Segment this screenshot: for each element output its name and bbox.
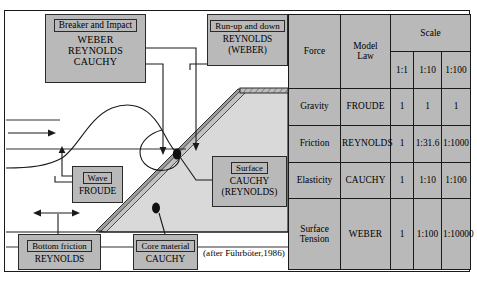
row-gravity-law: FROUDE [341, 88, 391, 125]
row-surface-tension-force-line2: Tension [290, 234, 339, 245]
row-surface-tension-value-2: 1:100 [414, 199, 442, 270]
callout-bottom-friction: Bottom friction REYNOLDS [18, 234, 101, 270]
anchor-dot-slope [173, 148, 181, 159]
leader-breaker-2 [146, 48, 196, 144]
row-gravity-value-1: 1 [391, 88, 414, 125]
leader-wave [55, 176, 72, 182]
row-friction-value-3: 1:1000 [442, 125, 471, 162]
row-friction-value-1: 1 [391, 125, 414, 162]
table-row: Elasticity CAUCHY 1 1:10 1:100 [289, 162, 471, 199]
row-surface-tension-law: WEBER [341, 199, 391, 270]
row-elasticity-value-3: 1:100 [442, 162, 471, 199]
row-surface-tension-force: Surface Tension [289, 199, 341, 270]
table-header-scale-1-10: 1:10 [414, 51, 442, 88]
callout-wave-line-1: FROUDE [75, 186, 120, 196]
row-surface-tension-value-3: 1:10000 [442, 199, 471, 270]
table-row: Surface Tension WEBER 1 1:100 1:10000 [289, 199, 471, 270]
row-elasticity-value-1: 1 [391, 162, 414, 199]
callout-breaker-line-3: CAUCHY [48, 56, 143, 67]
callout-runup-line-2: (WEBER) [210, 45, 285, 55]
callout-surface-line-2: (REYNOLDS) [215, 187, 284, 197]
callout-core-material-header: Core material [136, 240, 194, 252]
table-header-scale: Scale [391, 15, 471, 52]
row-gravity-force: Gravity [289, 88, 341, 125]
row-gravity-value-2: 1 [414, 88, 442, 125]
callout-breaker-header: Breaker and Impact [54, 19, 137, 32]
table-row: Gravity FROUDE 1 1 1 [289, 88, 471, 125]
table-header-row-1: Force Model Law Scale [289, 15, 471, 52]
bottom-friction-arrow [33, 210, 80, 217]
row-elasticity-force: Elasticity [289, 162, 341, 199]
callout-breaker-and-impact: Breaker and Impact WEBER REYNOLDS CAUCHY [45, 14, 146, 83]
row-gravity-value-3: 1 [442, 88, 471, 125]
table-header-scale-1-1: 1:1 [391, 51, 414, 88]
table-header-force: Force [289, 15, 341, 89]
table-header-model-law-line1: Model [342, 41, 389, 52]
anchor-dot-core [152, 203, 160, 214]
row-surface-tension-force-line1: Surface [290, 224, 339, 235]
wave-profile [6, 105, 178, 168]
callout-run-up-and-down: Run-up and down REYNOLDS (WEBER) [207, 14, 288, 66]
callout-wave: Wave FROUDE [72, 166, 123, 203]
callout-breaker-line-1: WEBER [48, 34, 143, 45]
row-friction-value-2: 1:31.6 [414, 125, 442, 162]
leader-breaker [146, 64, 163, 148]
scale-effects-table: Force Model Law Scale 1:1 1:10 1:100 Gra… [288, 14, 471, 270]
callout-surface: Surface CAUCHY (REYNOLDS) [212, 156, 287, 207]
callout-wave-header: Wave [83, 172, 113, 184]
leader-wave-2 [62, 152, 72, 176]
callout-bottom-friction-header: Bottom friction [27, 240, 92, 252]
callout-runup-header: Run-up and down [210, 20, 285, 32]
table-header-model-law-line2: Law [342, 51, 389, 62]
callout-surface-line-1: CAUCHY [215, 176, 284, 186]
figure-credit: (after Führböter,1986) [203, 248, 285, 258]
callout-breaker-line-2: REYNOLDS [48, 45, 143, 56]
callout-surface-header: Surface [231, 162, 268, 174]
row-elasticity-value-2: 1:10 [414, 162, 442, 199]
callout-runup-line-1: REYNOLDS [210, 34, 285, 44]
callout-core-material: Core material CAUCHY [133, 234, 198, 270]
row-surface-tension-value-1: 1 [391, 199, 414, 270]
callout-bottom-friction-line-1: REYNOLDS [21, 254, 98, 264]
row-elasticity-law: CAUCHY [341, 162, 391, 199]
table-header-model-law: Model Law [341, 15, 391, 89]
leader-runup [190, 64, 207, 70]
row-friction-law: REYNOLDS [341, 125, 391, 162]
table-row: Friction REYNOLDS 1 1:31.6 1:1000 [289, 125, 471, 162]
table-header-scale-1-100: 1:100 [442, 51, 471, 88]
wave-direction-arrow [8, 130, 56, 137]
row-friction-force: Friction [289, 125, 341, 162]
callout-core-material-line-1: CAUCHY [136, 254, 195, 264]
